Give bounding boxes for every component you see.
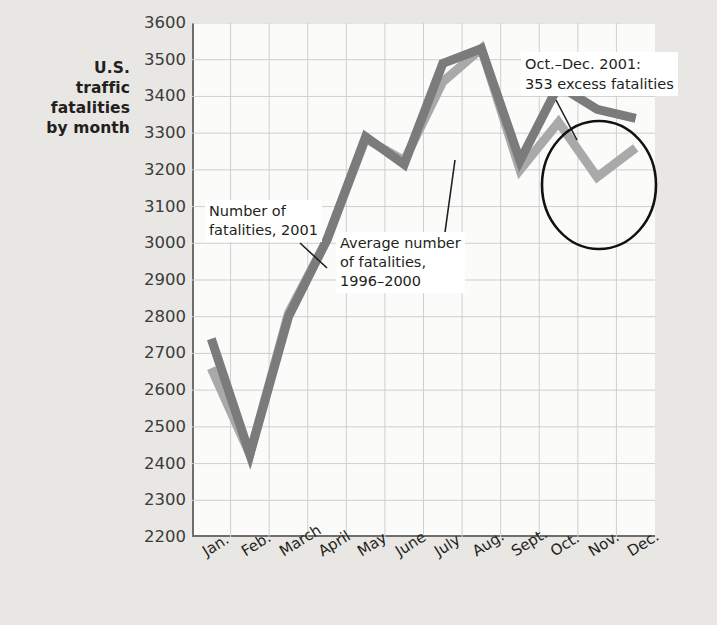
y-axis-tick-labels: 3600350034003300320031003000290028002700… bbox=[126, 23, 186, 537]
y-tick-2800: 2800 bbox=[144, 308, 186, 325]
y-tick-2200: 2200 bbox=[144, 529, 186, 546]
annotation-series-average-line-2: of fatalities, bbox=[340, 253, 461, 272]
annotation-excess-fatalities: Oct.–Dec. 2001: 353 excess fatalities bbox=[521, 52, 678, 96]
y-tick-3200: 3200 bbox=[144, 162, 186, 179]
y-tick-2900: 2900 bbox=[144, 272, 186, 289]
chart-title: U.S. traffic fatalities by month bbox=[0, 58, 130, 138]
annotation-series-average-line-3: 1996–2000 bbox=[340, 272, 461, 291]
annotation-excess-line-2: 353 excess fatalities bbox=[525, 74, 674, 94]
annotation-series-average-line-1: Average number bbox=[340, 234, 461, 253]
y-tick-2400: 2400 bbox=[144, 455, 186, 472]
y-tick-3500: 3500 bbox=[144, 51, 186, 68]
annotation-series-2001-line-1: Number of bbox=[209, 202, 318, 221]
y-tick-2700: 2700 bbox=[144, 345, 186, 362]
chart-title-line-4: by month bbox=[0, 118, 130, 138]
x-axis-tick-labels: Jan.Feb.MarchAprilMayJuneJulyAug.Sept.Oc… bbox=[192, 537, 655, 625]
y-tick-3000: 3000 bbox=[144, 235, 186, 252]
chart-figure: U.S. traffic fatalities by month 3600350… bbox=[0, 0, 717, 625]
y-tick-3300: 3300 bbox=[144, 125, 186, 142]
chart-title-line-3: fatalities bbox=[0, 98, 130, 118]
y-tick-3600: 3600 bbox=[144, 15, 186, 32]
y-tick-2600: 2600 bbox=[144, 382, 186, 399]
chart-title-line-2: traffic bbox=[0, 78, 130, 98]
y-tick-3400: 3400 bbox=[144, 88, 186, 105]
annotation-excess-line-1: Oct.–Dec. 2001: bbox=[525, 54, 674, 74]
y-tick-2300: 2300 bbox=[144, 492, 186, 509]
chart-title-line-1: U.S. bbox=[0, 58, 130, 78]
y-tick-2500: 2500 bbox=[144, 419, 186, 436]
annotation-series-2001: Number of fatalities, 2001 bbox=[205, 200, 322, 242]
annotation-series-average: Average number of fatalities, 1996–2000 bbox=[336, 232, 465, 293]
y-tick-3100: 3100 bbox=[144, 198, 186, 215]
annotation-series-2001-line-2: fatalities, 2001 bbox=[209, 221, 318, 240]
